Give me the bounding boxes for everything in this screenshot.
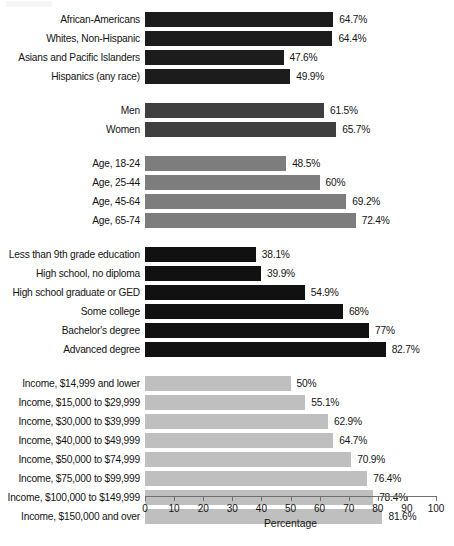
bar-value-label: 64.4% bbox=[338, 33, 366, 43]
x-axis-tick bbox=[291, 496, 292, 501]
bar-label: High school, no diploma bbox=[36, 268, 140, 278]
bar-value-label: 54.9% bbox=[311, 287, 339, 297]
bar-fill bbox=[145, 323, 369, 338]
bar-row: Income, $15,000 to $29,99955.1% bbox=[0, 395, 454, 410]
bar-value-label: 61.5% bbox=[330, 105, 358, 115]
bar-value-label: 78.4% bbox=[379, 492, 407, 502]
x-axis-tick bbox=[232, 496, 233, 501]
bar-row: Age, 25-4460% bbox=[0, 175, 454, 190]
bar bbox=[145, 213, 356, 228]
bar-row: High school, no diploma39.9% bbox=[0, 266, 454, 281]
bar-label: Whites, Non-Hispanic bbox=[46, 33, 140, 43]
bar-fill bbox=[145, 194, 346, 209]
x-axis-tick-label: 100 bbox=[428, 504, 445, 514]
x-axis-tick-label: 90 bbox=[401, 504, 412, 514]
bar-label: High school graduate or GED bbox=[12, 287, 140, 297]
bar-row: Less than 9th grade education38.1% bbox=[0, 247, 454, 262]
bar-value-label: 55.1% bbox=[311, 397, 339, 407]
bar-value-label: 76.4% bbox=[373, 473, 401, 483]
bar-label: Age, 18-24 bbox=[92, 158, 140, 168]
bar-fill bbox=[145, 471, 367, 486]
bar-label: Bachelor's degree bbox=[62, 325, 140, 335]
bar bbox=[145, 304, 343, 319]
bar-fill bbox=[145, 433, 333, 448]
bar-row: Age, 45-6469.2% bbox=[0, 194, 454, 209]
bar-value-label: 77% bbox=[375, 325, 395, 335]
x-axis-title: Percentage bbox=[145, 519, 436, 529]
bar-value-label: 64.7% bbox=[339, 435, 367, 445]
bar-row: Income, $40,000 to $49,99964.7% bbox=[0, 433, 454, 448]
bar-value-label: 47.6% bbox=[290, 52, 318, 62]
bar-row: Advanced degree82.7% bbox=[0, 342, 454, 357]
bar-value-label: 70.9% bbox=[357, 454, 385, 464]
bar-value-label: 72.4% bbox=[362, 215, 390, 225]
bar-fill bbox=[145, 304, 343, 319]
bar-label: Hispanics (any race) bbox=[51, 71, 140, 81]
x-axis-tick bbox=[145, 496, 146, 501]
bar-fill bbox=[145, 12, 333, 27]
bar-row: Men61.5% bbox=[0, 103, 454, 118]
bar bbox=[145, 266, 261, 281]
x-axis-tick bbox=[378, 496, 379, 501]
bar bbox=[145, 376, 291, 391]
bar bbox=[145, 452, 351, 467]
x-axis-tick-label: 50 bbox=[285, 504, 296, 514]
x-axis-tick-label: 0 bbox=[142, 504, 148, 514]
bar bbox=[145, 285, 305, 300]
bar-label: Income, $40,000 to $49,999 bbox=[18, 435, 140, 445]
bar-label: Advanced degree bbox=[63, 344, 140, 354]
bar-fill bbox=[145, 50, 284, 65]
bar-fill bbox=[145, 122, 336, 137]
bar-row: Income, $75,000 to $99,99976.4% bbox=[0, 471, 454, 486]
bar-fill bbox=[145, 414, 328, 429]
bar-fill bbox=[145, 213, 356, 228]
bar-fill bbox=[145, 156, 286, 171]
bar-label: Income, $14,999 and lower bbox=[22, 378, 140, 388]
x-axis-tick-label: 40 bbox=[256, 504, 267, 514]
bar-value-label: 38.1% bbox=[262, 249, 290, 259]
bar-row: African-Americans64.7% bbox=[0, 12, 454, 27]
x-axis: 0102030405060708090100 bbox=[145, 496, 436, 497]
bar-label: Less than 9th grade education bbox=[9, 249, 140, 259]
bar-value-label: 69.2% bbox=[352, 196, 380, 206]
bar-value-label: 39.9% bbox=[267, 268, 295, 278]
bar-fill bbox=[145, 376, 291, 391]
bar-label: Asians and Pacific Islanders bbox=[18, 52, 140, 62]
bar-label: Income, $15,000 to $29,999 bbox=[18, 397, 140, 407]
bar-row: Age, 18-2448.5% bbox=[0, 156, 454, 171]
bar-row: Income, $14,999 and lower50% bbox=[0, 376, 454, 391]
bar-row: Income, $50,000 to $74,99970.9% bbox=[0, 452, 454, 467]
bar bbox=[145, 433, 333, 448]
x-axis-tick bbox=[320, 496, 321, 501]
bar-fill bbox=[145, 103, 324, 118]
x-axis-tick bbox=[349, 496, 350, 501]
x-axis-tick-label: 60 bbox=[314, 504, 325, 514]
bar bbox=[145, 50, 284, 65]
bar-label: Age, 45-64 bbox=[92, 196, 140, 206]
bar-fill bbox=[145, 175, 320, 190]
bar bbox=[145, 247, 256, 262]
bar-label: Income, $50,000 to $74,999 bbox=[18, 454, 140, 464]
bar-value-label: 64.7% bbox=[339, 14, 367, 24]
bar-value-label: 50% bbox=[297, 378, 317, 388]
bar-label: Income, $75,000 to $99,999 bbox=[18, 473, 140, 483]
bar bbox=[145, 395, 305, 410]
x-axis-tick-label: 30 bbox=[227, 504, 238, 514]
bar bbox=[145, 342, 386, 357]
bar-row: High school graduate or GED54.9% bbox=[0, 285, 454, 300]
bar-value-label: 82.7% bbox=[392, 344, 420, 354]
bar bbox=[145, 156, 286, 171]
bar bbox=[145, 122, 336, 137]
bar-label: Income, $150,000 and over bbox=[21, 511, 140, 521]
bar-value-label: 68% bbox=[349, 306, 369, 316]
x-axis-tick bbox=[436, 496, 437, 501]
bar bbox=[145, 414, 328, 429]
bar bbox=[145, 12, 333, 27]
bar-row: Whites, Non-Hispanic64.4% bbox=[0, 31, 454, 46]
bar bbox=[145, 103, 324, 118]
bar bbox=[145, 175, 320, 190]
bar-label: Income, $100,000 to $149,999 bbox=[8, 492, 141, 502]
bar-chart: African-Americans64.7%Whites, Non-Hispan… bbox=[0, 0, 454, 546]
bar-fill bbox=[145, 266, 261, 281]
bar bbox=[145, 471, 367, 486]
